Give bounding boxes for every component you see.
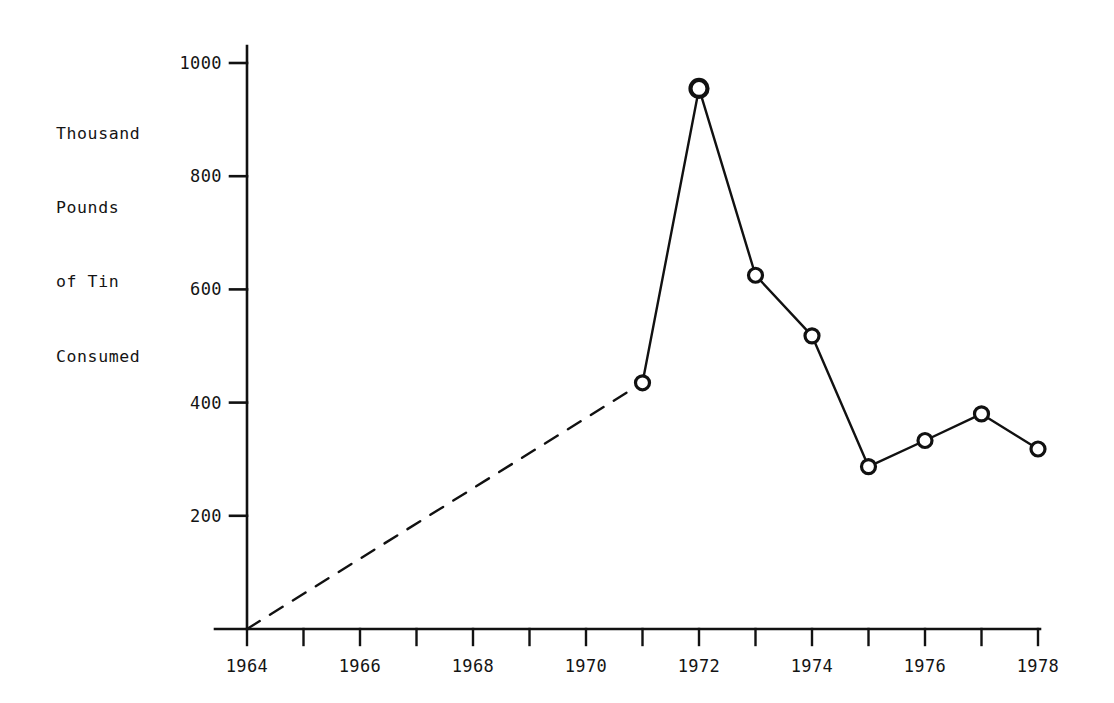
x-axis-tick-label: 1974 [791,656,834,676]
chart-plot-area: 2004006008001000 19641966196819701972197… [0,0,1114,703]
data-point-marker [749,268,763,282]
chart-figure: Thousand Pounds of Tin Consumed 20040060… [0,0,1114,703]
x-axis-tick-label: 1968 [452,656,495,676]
series-segment-solid [925,414,982,441]
data-point-marker [1031,442,1045,456]
x-axis-tick-label: 1966 [339,656,382,676]
x-axis-ticks: 19641966196819701972197419761978 [226,629,1060,676]
y-axis-tick-label: 1000 [179,53,222,73]
x-axis-tick-label: 1978 [1017,656,1060,676]
x-axis-tick-label: 1964 [226,656,269,676]
y-axis-tick-label: 400 [190,393,222,413]
x-axis-tick-label: 1976 [904,656,947,676]
data-point-marker [862,460,876,474]
series-segment-solid [812,336,869,467]
data-series-line [247,88,1038,629]
data-point-marker [636,376,650,390]
series-segment-solid [869,441,926,467]
y-axis-ticks: 2004006008001000 [179,53,247,526]
data-point-markers [636,80,1046,474]
series-segment-solid [982,414,1039,449]
data-point-marker [691,80,708,97]
data-point-marker [975,407,989,421]
data-point-marker [805,329,819,343]
y-axis-tick-label: 600 [190,279,222,299]
y-axis-tick-label: 200 [190,506,222,526]
data-point-marker [918,434,932,448]
x-axis-tick-label: 1970 [565,656,608,676]
axes [215,46,1040,629]
x-axis-tick-label: 1972 [678,656,721,676]
series-segment-solid [643,88,700,382]
series-segment-solid [756,275,813,336]
y-axis-tick-label: 800 [190,166,222,186]
series-segment-solid [699,88,756,275]
series-segment-dashed [247,383,643,629]
